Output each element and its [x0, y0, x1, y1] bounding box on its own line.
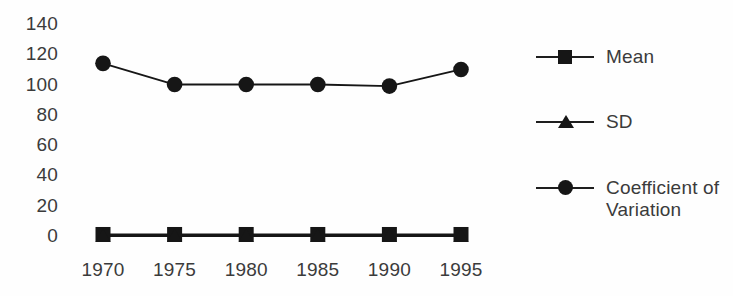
x-axis-tick-1985: 1985	[282, 259, 354, 281]
data-point-marker	[167, 77, 183, 93]
data-point-marker	[310, 77, 326, 93]
series-coefficient-of-variation	[95, 56, 469, 94]
y-axis-tick-100: 100	[0, 74, 58, 96]
legend-item-label: SD	[606, 111, 633, 133]
x-axis-tick-1975: 1975	[139, 259, 211, 281]
y-axis-tick-0: 0	[0, 225, 58, 247]
data-point-marker	[453, 62, 469, 78]
legend-key	[534, 46, 596, 68]
data-point-marker	[238, 77, 254, 93]
y-axis-tick-140: 140	[0, 13, 58, 35]
data-point-marker	[382, 78, 398, 94]
legend-item-label: Coefficient of Variation	[606, 177, 719, 221]
legend-item-sd[interactable]: SD	[534, 111, 633, 133]
legend-item-mean[interactable]: Mean	[534, 46, 654, 68]
chart-legend: MeanSDCoefficient of Variation	[534, 0, 733, 296]
x-axis-tick-1990: 1990	[353, 259, 425, 281]
legend-item-coefficient-of-variation[interactable]: Coefficient of Variation	[534, 177, 719, 221]
data-point-marker	[95, 56, 111, 72]
y-axis-tick-20: 20	[0, 195, 58, 217]
x-axis-tick-1995: 1995	[425, 259, 497, 281]
legend-key	[534, 177, 596, 199]
plot-area	[0, 0, 520, 296]
series-mean	[96, 227, 469, 242]
x-axis-tick-1970: 1970	[67, 259, 139, 281]
chart-figure: 140120100806040200 197019751980198519901…	[0, 0, 733, 296]
x-axis-tick-1980: 1980	[210, 259, 282, 281]
series-line	[103, 63, 461, 86]
legend-key	[534, 111, 596, 133]
square-marker-icon	[558, 50, 572, 64]
legend-item-label: Mean	[606, 46, 654, 68]
y-axis-tick-60: 60	[0, 134, 58, 156]
series-sd	[96, 229, 469, 243]
circle-marker-icon	[558, 180, 573, 195]
series-canvas	[0, 0, 520, 296]
y-axis-tick-40: 40	[0, 164, 58, 186]
y-axis-tick-120: 120	[0, 43, 58, 65]
y-axis-tick-80: 80	[0, 104, 58, 126]
triangle-marker-icon	[558, 115, 574, 128]
